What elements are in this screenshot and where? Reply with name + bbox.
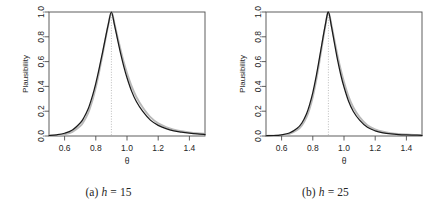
y-axis-label: Plausibility [238,55,247,93]
curve-gray-curve [266,12,422,136]
curve-gray-curve [49,12,205,136]
x-tick-label: 0.8 [90,143,102,153]
plot-area-b: 0.60.81.01.21.40.00.20.40.60.81.0θPlausi… [217,0,434,175]
y-tick-label: 0.2 [36,105,46,117]
x-tick-label: 1.4 [400,143,412,153]
panel-b-caption-label: (b) [302,186,316,198]
x-tick-label: 1.4 [183,143,195,153]
x-tick-label: 1.0 [338,143,350,153]
panel-b: 0.60.81.01.21.40.00.20.40.60.81.0θPlausi… [217,0,434,204]
y-axis-label: Plausibility [21,55,30,93]
plot-area-a: 0.60.81.01.21.40.00.20.40.60.81.0θPlausi… [0,0,217,175]
y-tick-label: 1.0 [253,6,263,18]
y-tick-label: 0.6 [253,55,263,67]
x-tick-label: 1.0 [121,143,133,153]
x-axis-label: θ [125,156,130,166]
x-tick-label: 1.2 [369,143,381,153]
panel-a-caption-label: (a) [85,186,98,198]
panel-a-caption-eq: = [110,186,117,198]
x-tick-label: 0.8 [307,143,319,153]
curve-black-curve [266,12,422,136]
y-tick-label: 0.8 [253,31,263,43]
panel-a-caption: (a) h = 15 [0,186,217,198]
y-tick-label: 1.0 [36,6,46,18]
y-tick-label: 0.2 [253,105,263,117]
panel-b-caption: (b) h = 25 [217,186,434,198]
figure-two-panel-plausibility: 0.60.81.01.21.40.00.20.40.60.81.0θPlausi… [0,0,435,204]
panel-a-caption-value: 15 [120,186,132,198]
panel-b-caption-value: 25 [337,186,349,198]
y-tick-label: 0.8 [36,31,46,43]
x-tick-label: 0.6 [59,143,71,153]
y-tick-label: 0.4 [36,80,46,92]
plot-frame [266,12,422,136]
x-tick-label: 0.6 [276,143,288,153]
y-tick-label: 0.0 [36,130,46,142]
y-tick-label: 0.6 [36,55,46,67]
y-tick-label: 0.4 [253,80,263,92]
panel-a: 0.60.81.01.21.40.00.20.40.60.81.0θPlausi… [0,0,217,204]
x-axis-label: θ [342,156,347,166]
x-tick-label: 1.2 [152,143,164,153]
y-tick-label: 0.0 [253,130,263,142]
